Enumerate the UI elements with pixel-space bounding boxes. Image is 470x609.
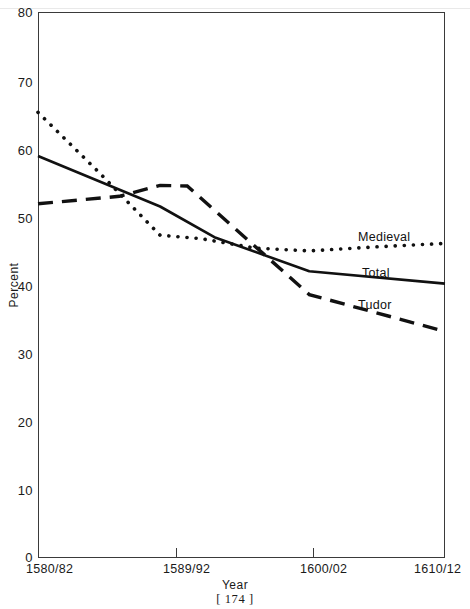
x-tick-mark-1600 [313, 548, 314, 558]
x-axis-title: Year [0, 578, 470, 592]
series-label-total: Total [362, 266, 390, 280]
y-axis-title: Percent [7, 255, 21, 315]
plot-area [38, 12, 445, 558]
x-tick-mark-1589 [176, 548, 177, 558]
y-tick-label-30: 30 [7, 348, 33, 361]
x-tick-label-1589: 1589/92 [163, 562, 210, 576]
y-tick-label-60: 60 [7, 144, 33, 157]
chart-figure: 80 70 60 50 40 30 20 10 0 Percent Mediev… [0, 0, 470, 609]
page-number: [ 174 ] [0, 592, 470, 607]
x-tick-label-1610: 1610/12 [414, 562, 461, 576]
y-tick-label-70: 70 [7, 76, 33, 89]
y-tick-label-10: 10 [7, 484, 33, 497]
x-tick-label-1600: 1600/02 [300, 562, 347, 576]
y-tick-label-20: 20 [7, 416, 33, 429]
x-tick-label-1580: 1580/82 [26, 562, 73, 576]
scan-artifact [0, 8, 470, 9]
series-label-medieval: Medieval [358, 230, 410, 244]
x-tick-mark-1610 [444, 548, 445, 558]
y-tick-label-80: 80 [7, 6, 33, 19]
y-tick-label-50: 50 [7, 212, 33, 225]
series-label-tudor: Tudor [358, 298, 392, 312]
